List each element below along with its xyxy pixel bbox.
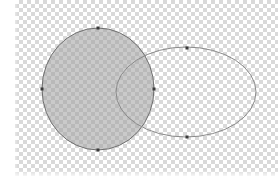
circle-anchor-bottom[interactable] (97, 149, 100, 152)
shapes-layer (0, 0, 278, 181)
ellipse-anchor-top[interactable] (186, 47, 189, 50)
ellipse-anchor-bottom[interactable] (186, 136, 189, 139)
filled-circle-shape[interactable] (42, 28, 154, 150)
circle-anchor-top[interactable] (97, 27, 100, 30)
drawing-stage (0, 0, 278, 181)
circle-anchor-right[interactable] (153, 88, 156, 91)
circle-anchor-left[interactable] (41, 88, 44, 91)
ellipse-anchor-points (186, 47, 189, 139)
